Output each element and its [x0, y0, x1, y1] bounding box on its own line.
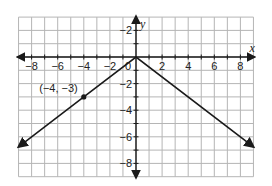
x-tick-label: −6: [51, 60, 64, 72]
x-tick-label: 6: [211, 60, 217, 72]
x-tick-label: −2: [104, 60, 117, 72]
y-tick-label: −4: [119, 104, 132, 116]
point-label: (−4, −3): [39, 82, 78, 94]
point-marker: [81, 94, 86, 99]
x-tick-label: 8: [237, 60, 243, 72]
y-tick-label: −2: [119, 78, 132, 90]
x-axis-label: x: [248, 41, 255, 55]
y-axis-label: y: [139, 17, 146, 31]
y-tick-label: −8: [119, 157, 132, 169]
y-tick-label: −6: [119, 131, 132, 143]
y-tick-label: −2: [119, 24, 132, 36]
coordinate-plane-chart: xy −8−6−4−202468−2−2−4−6−8 (−4, −3): [0, 0, 272, 186]
x-tick-label: −4: [78, 60, 91, 72]
x-tick-label: 4: [185, 60, 191, 72]
x-tick-label: 2: [159, 60, 165, 72]
x-tick-label: −8: [25, 60, 38, 72]
